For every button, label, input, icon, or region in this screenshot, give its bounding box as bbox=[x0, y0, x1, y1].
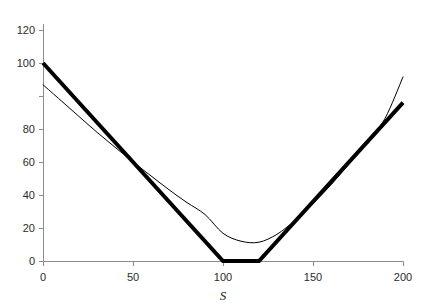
x-tick-label-0: 0 bbox=[40, 272, 46, 283]
y-tick-label-80: 80 bbox=[12, 124, 35, 135]
y-tick-label-60: 60 bbox=[12, 157, 35, 168]
y-tick-label-20: 20 bbox=[12, 223, 35, 234]
y-tick-label-40: 40 bbox=[12, 190, 35, 201]
y-tick-label-100: 100 bbox=[6, 58, 35, 69]
y-tick-label-120: 120 bbox=[6, 25, 35, 36]
plot-area bbox=[0, 0, 431, 308]
x-tick-label-200: 200 bbox=[394, 272, 412, 283]
series-payoff-at-expiry bbox=[43, 63, 403, 261]
y-tick-label-0: 0 bbox=[12, 256, 35, 267]
x-tick-label-150: 150 bbox=[304, 272, 322, 283]
x-tick-label-50: 50 bbox=[127, 272, 139, 283]
chart-figure: 0 20 40 60 80 100 120 0 50 100 150 200 S bbox=[0, 0, 431, 308]
x-tick-label-100: 100 bbox=[214, 272, 232, 283]
x-axis-title: S bbox=[220, 289, 227, 302]
